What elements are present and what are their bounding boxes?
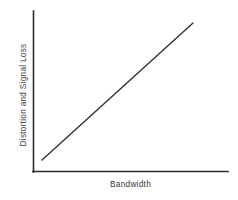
line-chart-figure: Distortion and Signal Loss Bandwidth xyxy=(0,0,238,200)
data-series-line xyxy=(42,23,193,160)
chart-plot-area xyxy=(0,0,238,200)
y-axis-label: Distortion and Signal Loss xyxy=(18,44,28,147)
x-axis-label: Bandwidth xyxy=(33,179,228,189)
y-axis-label-container: Distortion and Signal Loss xyxy=(12,28,26,162)
